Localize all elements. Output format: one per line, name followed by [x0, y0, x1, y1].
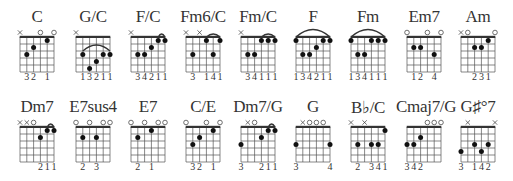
finger-number: 1 [106, 71, 114, 82]
finger-dot-icon [486, 142, 491, 147]
finger-dot-icon [80, 135, 85, 140]
finger-number: 4 [430, 71, 438, 82]
finger-dot-icon [266, 38, 271, 43]
open-string-icon [156, 120, 161, 125]
muted-string-icon [18, 30, 22, 34]
finger-dot-icon [472, 45, 477, 50]
chord-diagram: Em7124 [396, 0, 452, 90]
finger-dot-icon [479, 45, 484, 50]
finger-dot-icon [218, 38, 223, 43]
open-string-icon [74, 120, 79, 125]
finger-dot-icon [211, 128, 216, 133]
finger-dot-icon [321, 38, 326, 43]
finger-dot-icon [418, 45, 423, 50]
open-string-icon [432, 120, 437, 125]
chord-diagram: G♯°73142 [450, 90, 506, 180]
chord-diagram: Cmaj7/G342 [396, 90, 452, 180]
finger-number: 4 [326, 161, 334, 172]
finger-number: 1 [484, 71, 492, 82]
finger-number: 1 [381, 71, 389, 82]
finger-dot-icon [432, 52, 437, 57]
finger-dot-icon [31, 45, 36, 50]
open-string-icon [101, 120, 106, 125]
finger-number: 3 [457, 161, 465, 172]
open-string-icon [466, 30, 471, 35]
muted-string-icon [466, 120, 470, 124]
finger-dot-icon [259, 38, 264, 43]
muted-string-icon [129, 30, 133, 34]
finger-dot-icon [300, 52, 305, 57]
finger-dot-icon [266, 128, 271, 133]
finger-number: 3 [292, 161, 300, 172]
chord-diagram: Fm/C34111 [230, 0, 286, 90]
finger-dot-icon [239, 142, 244, 147]
finger-dot-icon [108, 52, 113, 57]
open-string-icon [184, 120, 189, 125]
open-string-icon [439, 120, 444, 125]
open-string-icon [493, 30, 498, 35]
finger-number: 1 [216, 71, 224, 82]
finger-dot-icon [307, 52, 312, 57]
open-string-icon [425, 30, 430, 35]
chord-chart: C321G/C13211F/C34211Fm6/C3141Fm/C34111F1… [0, 0, 513, 181]
muted-string-icon [362, 120, 366, 124]
finger-number: 3 [189, 71, 197, 82]
muted-string-icon [18, 120, 22, 124]
muted-string-icon [349, 120, 353, 124]
finger-dot-icon [135, 135, 140, 140]
finger-number: 3 [237, 161, 245, 172]
finger-dot-icon [94, 59, 99, 64]
finger-number: 1 [381, 161, 389, 172]
finger-dot-icon [418, 135, 423, 140]
finger-dot-icon [486, 38, 491, 43]
chord-diagram: E7sus423 [65, 90, 121, 180]
finger-dot-icon [314, 45, 319, 50]
open-string-icon [129, 120, 134, 125]
finger-dot-icon [45, 128, 50, 133]
finger-dot-icon [479, 149, 484, 154]
finger-dot-icon [245, 52, 250, 57]
finger-dot-icon [369, 142, 374, 147]
chord-diagram: G/C13211 [65, 0, 121, 90]
finger-dot-icon [273, 38, 278, 43]
finger-dot-icon [45, 38, 50, 43]
chord-diagram: Fm6/C3141 [175, 0, 231, 90]
finger-number: 1 [161, 71, 169, 82]
open-string-icon [307, 120, 312, 125]
finger-dot-icon [273, 128, 278, 133]
finger-number: 2 [134, 161, 142, 172]
finger-dot-icon [369, 38, 374, 43]
open-string-icon [252, 120, 257, 125]
finger-dot-icon [411, 142, 416, 147]
chord-diagram: Dm7211 [9, 90, 65, 180]
finger-dot-icon [156, 38, 161, 43]
chord-diagram: Fm134111 [340, 0, 396, 90]
muted-string-icon [493, 120, 497, 124]
finger-number: 2 [484, 161, 492, 172]
finger-dot-icon [411, 45, 416, 50]
muted-string-icon [246, 120, 250, 124]
finger-number: 1 [147, 161, 155, 172]
finger-dot-icon [149, 45, 154, 50]
finger-dot-icon [376, 142, 381, 147]
finger-dot-icon [259, 135, 264, 140]
finger-dot-icon [204, 38, 209, 43]
open-string-icon [218, 120, 223, 125]
finger-dot-icon [349, 38, 354, 43]
finger-number: 2 [417, 71, 425, 82]
muted-string-icon [25, 120, 29, 124]
finger-dot-icon [190, 142, 195, 147]
finger-number: 3 [92, 161, 100, 172]
finger-dot-icon [24, 52, 29, 57]
finger-dot-icon [252, 52, 257, 57]
chord-diagram: C321 [9, 0, 65, 90]
finger-dot-icon [142, 52, 147, 57]
open-string-icon [52, 30, 57, 35]
chord-diagram: C/E321 [175, 90, 231, 180]
finger-dot-icon [149, 128, 154, 133]
finger-dot-icon [190, 52, 195, 57]
finger-dot-icon [38, 135, 43, 140]
finger-dot-icon [52, 128, 57, 133]
finger-dot-icon [294, 38, 299, 43]
finger-number: 1 [326, 71, 334, 82]
